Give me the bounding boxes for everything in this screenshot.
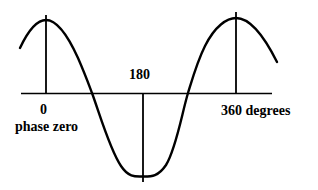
cosine-curve [20, 18, 277, 177]
sine-wave-figure: 0 phase zero 180 360 degrees [0, 0, 318, 190]
axis-label-180-degrees: 180 [129, 68, 150, 82]
axis-label-0-degrees: 0 [40, 103, 47, 117]
axis-label-360-degrees: 360 degrees [221, 104, 290, 118]
waveform-plot [0, 0, 318, 190]
annotation-phase-zero: phase zero [15, 120, 78, 134]
